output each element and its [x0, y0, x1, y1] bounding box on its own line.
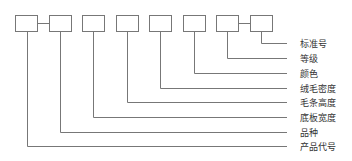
- code-box-6: [217, 16, 239, 32]
- label-variety: 品种: [300, 128, 318, 138]
- label-base-width: 底板宽度: [300, 113, 336, 123]
- leader-line-7: [262, 32, 288, 44]
- code-box-4: [150, 16, 172, 32]
- label-color: 颜色: [300, 69, 318, 79]
- leader-line-4: [161, 32, 288, 89]
- label-product-code: 产品代号: [300, 142, 336, 152]
- code-box-1: [50, 16, 72, 32]
- label-grade: 等级: [300, 54, 318, 64]
- code-box-7: [251, 16, 273, 32]
- label-strip-height: 毛条高度: [300, 98, 336, 108]
- code-box-3: [117, 16, 139, 32]
- leader-line-3: [128, 32, 288, 103]
- code-box-2: [83, 16, 105, 32]
- label-standard-number: 标准号: [300, 39, 327, 49]
- leader-line-2: [94, 32, 288, 118]
- label-pile-density: 绒毛密度: [300, 84, 336, 94]
- leader-line-6: [228, 32, 288, 59]
- leader-line-5: [195, 32, 288, 74]
- code-box-0: [16, 16, 38, 32]
- code-box-5: [184, 16, 206, 32]
